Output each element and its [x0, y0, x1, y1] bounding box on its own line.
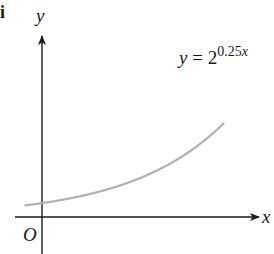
part-label: i	[0, 2, 5, 22]
equation-exponent: 0.25x	[217, 44, 249, 59]
x-axis-label: x	[261, 206, 271, 227]
equation-exponent-variable: x	[241, 44, 249, 59]
graph-canvas: i y x O y = 20.25x	[0, 0, 274, 254]
equation-lhs: y	[177, 47, 188, 68]
exponential-curve	[26, 123, 224, 205]
equation-base: 2	[208, 47, 218, 68]
y-axis-label: y	[34, 5, 45, 26]
origin-label: O	[23, 224, 37, 245]
equation-equals: =	[187, 47, 207, 68]
curve-equation-label: y = 20.25x	[177, 44, 249, 68]
